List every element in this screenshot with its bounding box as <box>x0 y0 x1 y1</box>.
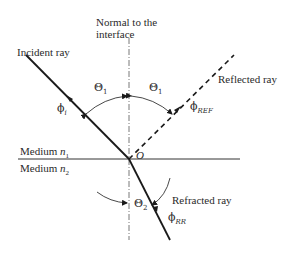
theta1-right-label: Θ1 <box>149 82 163 98</box>
reflected-ray <box>129 55 234 159</box>
phi-symbol: ϕ <box>57 102 65 115</box>
phi-symbol: ϕ <box>168 211 176 224</box>
normal-label-line2: interface <box>96 28 134 40</box>
medium1-text: Medium <box>20 145 57 157</box>
medium1-label: Medium n1 <box>20 145 69 162</box>
phi-refracted-sub: RR <box>176 218 187 226</box>
reflected-ray-label: Reflected ray <box>218 73 277 85</box>
medium2-sub: 2 <box>66 169 70 177</box>
theta1-right-arc <box>131 96 172 114</box>
theta-symbol: Θ <box>94 81 103 94</box>
refracted-ray-label: Refracted ray <box>172 194 232 206</box>
phi-reflected-label: ϕREF <box>190 101 213 117</box>
medium2-label: Medium n2 <box>20 162 69 179</box>
theta1-left-arc <box>86 96 127 114</box>
phi-incident-label: ϕi <box>57 103 67 119</box>
incident-ray <box>26 55 129 159</box>
phi-reflected-sub: REF <box>198 107 213 115</box>
diagram-canvas: Normal to the interface Incident ray Ref… <box>0 0 288 253</box>
ray-diagram-svg <box>0 0 288 253</box>
theta2-left-arc <box>97 192 127 203</box>
origin-label: O <box>136 149 144 161</box>
theta2-label: Θ2 <box>134 198 148 214</box>
reflected-arrow-icon <box>174 106 181 113</box>
theta2-right-arc <box>152 178 170 205</box>
theta1-sub: 1 <box>103 88 107 96</box>
theta2-sub: 2 <box>143 204 147 212</box>
normal-label-line1: Normal to the <box>96 16 157 28</box>
phi-symbol: ϕ <box>190 100 198 113</box>
incident-ray-label: Incident ray <box>17 46 70 58</box>
medium1-sub: 1 <box>66 152 70 160</box>
theta-symbol: Θ <box>134 197 143 210</box>
theta1-sub: 1 <box>158 88 162 96</box>
theta1-left-label: Θ1 <box>94 82 108 98</box>
theta-symbol: Θ <box>149 81 158 94</box>
medium2-text: Medium <box>20 162 57 174</box>
phi-incident-sub: i <box>65 109 67 117</box>
phi-refracted-label: ϕRR <box>168 212 186 228</box>
